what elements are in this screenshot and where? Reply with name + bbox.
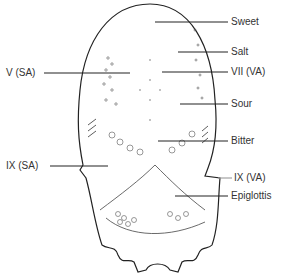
label-sour: Sour [231,99,252,109]
label-epiglottis: Epiglottis [231,191,272,201]
label-vii-va: VII (VA) [231,67,265,77]
label-ix-sa: IX (SA) [6,161,38,171]
label-v-sa: V (SA) [6,68,35,78]
label-bitter: Bitter [231,136,254,146]
label-ix-va: IX (VA) [234,173,265,183]
tongue-diagram: Sweet Salt VII (VA) Sour Bitter IX (VA) … [0,0,284,278]
label-salt: Salt [231,47,248,57]
label-sweet: Sweet [231,17,259,27]
